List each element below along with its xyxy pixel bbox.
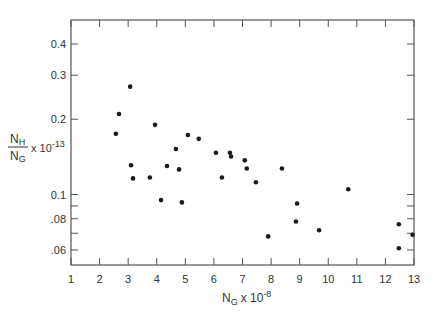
data-point [244,166,249,171]
data-point [196,137,201,142]
x-tick-label: 7 [239,273,245,285]
data-point [294,219,299,224]
data-point [266,234,271,239]
data-point [180,200,185,205]
x-tick-label: 11 [351,273,362,285]
data-point [295,201,300,206]
x-axis-label: NGx 10-8 [222,289,271,307]
data-point [153,123,158,128]
data-point [242,158,247,163]
data-point [280,166,285,171]
data-point [229,154,234,159]
y-tick-label: 0.1 [51,189,66,201]
data-point [397,222,402,227]
data-point [397,246,402,251]
data-point [214,150,219,155]
data-point [114,131,119,136]
x-tick-label: 2 [97,273,103,285]
x-tick-label: 8 [268,273,274,285]
y-axis-ticks: 0.40.30.20.1.08.06 [51,38,414,256]
data-point [129,163,134,168]
data-point [128,84,133,89]
data-point [174,147,179,152]
data-point [410,233,415,238]
y-tick-label: 0.4 [51,38,66,50]
x-tick-label: 4 [154,273,160,285]
data-point [177,167,182,172]
plot-frame [71,20,414,265]
x-axis-ticks: 12345678910111213 [68,20,420,285]
svg-text:NH: NH [10,132,25,147]
data-point [220,175,225,180]
data-point [346,187,351,192]
y-tick-label: 0.3 [51,69,66,81]
data-point [317,228,322,233]
data-point [117,112,122,117]
x-tick-label: 6 [211,273,217,285]
scatter-chart: 12345678910111213 0.40.30.20.1.08.06 NGx… [0,0,433,324]
x-tick-label: 10 [322,273,334,285]
svg-text:NG: NG [10,149,26,164]
x-tick-label: 1 [68,273,74,285]
y-tick-label: .08 [51,213,66,225]
x-tick-label: 5 [182,273,188,285]
svg-text:x 10-13: x 10-13 [31,139,65,154]
data-point [131,176,136,181]
x-tick-label: 12 [379,273,391,285]
data-points [114,84,415,250]
x-tick-label: 13 [408,273,420,285]
y-tick-label: 0.2 [51,113,66,125]
data-point [148,175,153,180]
data-point [159,198,164,203]
data-point [186,133,191,138]
data-point [165,164,170,169]
y-tick-label: .06 [51,244,66,256]
x-tick-label: 3 [125,273,131,285]
x-tick-label: 9 [297,273,303,285]
y-axis-label: NH NG x 10-13 [8,132,65,164]
data-point [254,180,259,185]
